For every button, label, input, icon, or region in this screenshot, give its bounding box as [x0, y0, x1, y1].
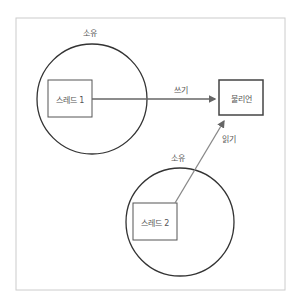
frame [16, 18, 285, 290]
read-label: 읽기 [222, 133, 236, 144]
diagram-canvas [0, 0, 303, 305]
owner-label-1: 소유 [83, 27, 97, 38]
thread2-label: 스레드 2 [141, 217, 170, 228]
thread1-label: 스레드 1 [56, 94, 85, 105]
owner-label-2: 소유 [171, 152, 185, 163]
boolean-label: 불리언 [231, 93, 252, 104]
write-label: 쓰기 [174, 84, 188, 95]
